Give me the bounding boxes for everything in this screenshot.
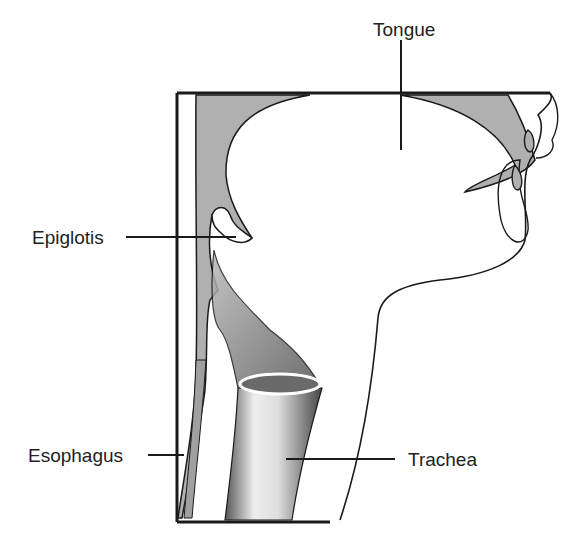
anatomy-diagram: Tongue Epiglotis Esophagus Trachea	[0, 0, 579, 540]
esophagus-strip	[184, 360, 206, 518]
trachea-tube	[225, 388, 322, 520]
label-tongue: Tongue	[373, 20, 435, 39]
label-esophagus: Esophagus	[28, 446, 123, 465]
trachea-opening	[240, 374, 320, 394]
label-epiglottis: Epiglotis	[32, 228, 104, 247]
label-trachea: Trachea	[408, 450, 477, 469]
larynx	[212, 250, 320, 388]
